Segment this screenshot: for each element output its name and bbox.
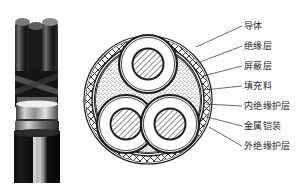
- conductor-top: [133, 49, 164, 80]
- label-metal-armour: 金属铠装: [244, 122, 281, 131]
- label-filler: 填充料: [244, 82, 272, 91]
- label-outer-insulation-sheath: 外绝缘护层: [244, 142, 291, 151]
- conductor-bottom-right: [155, 109, 186, 140]
- conductor-bottom-left: [111, 109, 142, 140]
- label-shielding-layer: 屏蔽层: [244, 62, 272, 71]
- cable-core-bottom-right: [141, 95, 199, 153]
- cable-structure-figure: 导体绝缘层屏蔽层填充料内绝缘护层金属铠装外绝缘护层: [0, 0, 308, 193]
- label-insulation-layer: 绝缘层: [244, 42, 272, 51]
- cable-core-top: [119, 35, 177, 93]
- label-conductor: 导体: [244, 22, 263, 31]
- label-inner-insulation-sheath: 内绝缘护层: [244, 102, 291, 111]
